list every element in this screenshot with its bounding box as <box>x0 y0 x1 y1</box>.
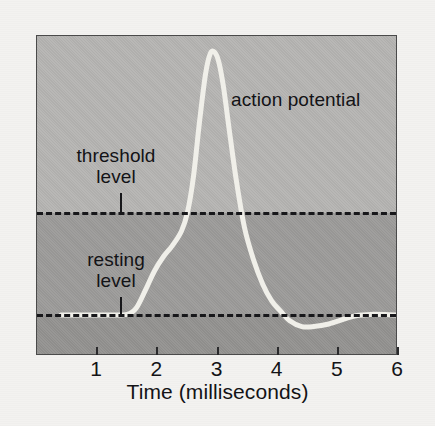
x-tick-6 <box>397 347 399 355</box>
action-potential-figure: action potential threshold level resting… <box>0 0 435 426</box>
x-tick-label-5: 5 <box>331 357 343 380</box>
x-tick-label-1: 1 <box>90 357 102 380</box>
resting-level-line <box>37 314 396 317</box>
resting-level-label: resting level <box>51 249 181 291</box>
x-tick-label-3: 3 <box>211 357 223 380</box>
threshold-level-label-line1: threshold <box>51 145 181 166</box>
threshold-level-label-line2: level <box>51 166 181 187</box>
resting-level-label-line2: level <box>51 270 181 291</box>
x-tick-1 <box>96 347 98 355</box>
x-tick-label-2: 2 <box>150 357 162 380</box>
threshold-level-label: threshold level <box>51 145 181 187</box>
threshold-level-pointer <box>120 193 122 212</box>
x-tick-2 <box>156 347 158 355</box>
resting-level-label-line1: resting <box>51 249 181 270</box>
x-tick-label-6: 6 <box>391 357 403 380</box>
resting-level-pointer <box>120 297 122 314</box>
plot-area: action potential threshold level resting… <box>36 35 397 355</box>
threshold-level-line <box>37 212 396 215</box>
x-tick-5 <box>337 347 339 355</box>
x-tick-4 <box>277 347 279 355</box>
membrane-potential-curve <box>37 36 397 355</box>
action-potential-label: action potential <box>231 89 360 110</box>
x-tick-3 <box>217 347 219 355</box>
x-tick-label-4: 4 <box>271 357 283 380</box>
x-axis-title: Time (milliseconds) <box>0 380 435 404</box>
